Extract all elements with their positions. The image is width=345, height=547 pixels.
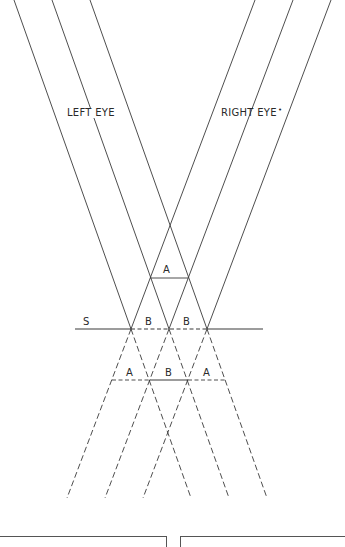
left-ray-3-dashed <box>207 329 267 498</box>
bottom-right-frame <box>180 536 345 547</box>
label-screen-s: S <box>83 317 90 327</box>
right-ray-3 <box>207 0 331 329</box>
left-ray-1 <box>14 0 131 329</box>
right-ray-3-dashed <box>143 329 207 498</box>
label-b-left: B <box>145 317 152 327</box>
label-a-bottom-left: A <box>126 368 133 378</box>
right-ray-2-dashed <box>105 329 169 498</box>
label-a-bottom-right: A <box>203 368 210 378</box>
label-b-bottom: B <box>165 368 172 378</box>
right-eye-dot: • <box>278 107 282 114</box>
left-ray-1-dashed <box>131 329 191 498</box>
label-a-top: A <box>163 265 170 275</box>
left-eye-label: LEFT EYE <box>66 108 116 118</box>
left-ray-3 <box>90 0 207 329</box>
right-eye-label: RIGHT EYE <box>221 108 277 118</box>
right-ray-2 <box>169 0 293 329</box>
left-ray-2-dashed <box>169 329 229 498</box>
bottom-left-frame <box>0 536 167 547</box>
right-ray-1 <box>131 0 255 329</box>
right-ray-1-dashed <box>67 329 131 498</box>
label-b-right: B <box>183 317 190 327</box>
left-ray-2 <box>52 0 169 329</box>
